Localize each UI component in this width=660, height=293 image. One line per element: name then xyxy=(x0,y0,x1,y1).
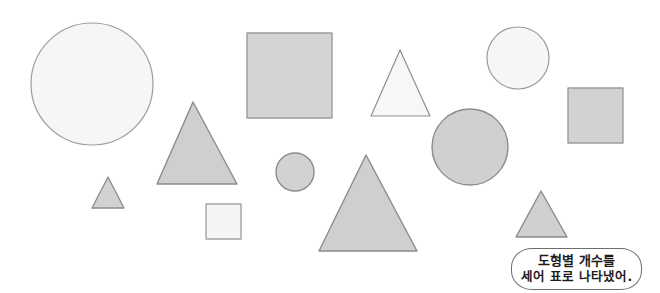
shape-triangle-small-right-gray xyxy=(516,191,567,237)
speech-bubble-line-1: 도형별 개수를 xyxy=(538,254,616,269)
shape-square-large-gray xyxy=(247,33,332,118)
illustration-canvas: 도형별 개수를 세어 표로 나타냈어. xyxy=(0,0,660,293)
shape-circle-mid-gray xyxy=(432,109,508,185)
speech-bubble-line-2: 세어 표로 나타냈어. xyxy=(521,270,633,284)
shape-circle-large-white xyxy=(31,23,153,145)
shape-triangle-center-gray xyxy=(319,155,417,251)
shape-square-right-gray xyxy=(568,88,623,143)
shape-circle-small-gray xyxy=(276,153,314,191)
shape-circle-topright-white xyxy=(487,27,549,89)
shape-triangle-small-left-gray xyxy=(92,177,124,208)
speech-bubble: 도형별 개수를 세어 표로 나타냈어. xyxy=(511,248,642,290)
shape-triangle-top-white xyxy=(371,50,430,116)
shape-square-small-white xyxy=(206,204,241,239)
shape-triangle-left-gray xyxy=(157,102,237,184)
